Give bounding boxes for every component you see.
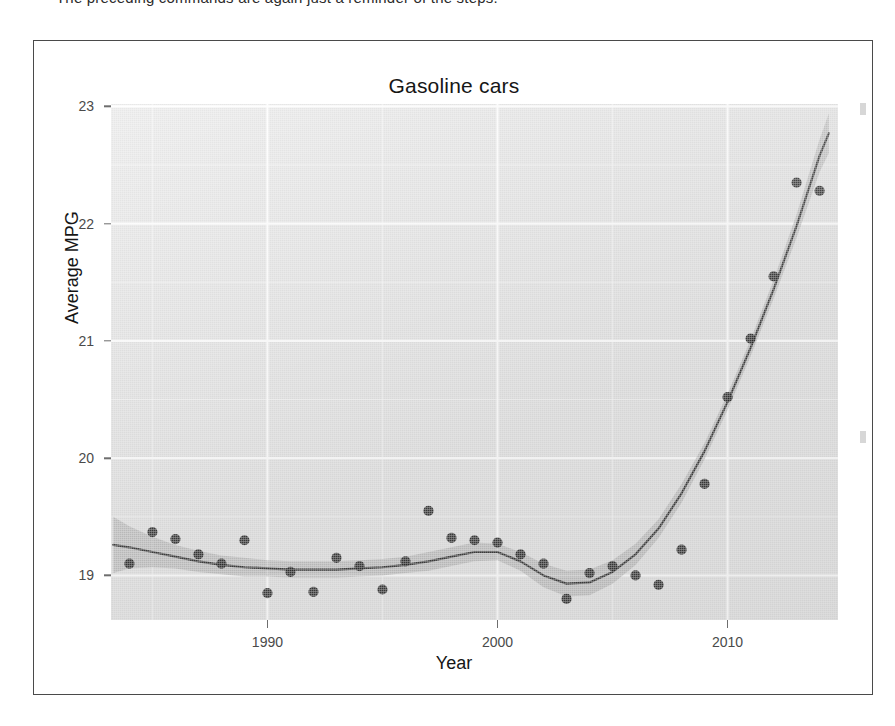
y-axis-tick-mark (104, 340, 111, 341)
x-axis-tick-mark (727, 620, 728, 628)
x-axis-tick-labels: 199020002010 (111, 620, 838, 654)
x-axis-tick-mark (497, 620, 498, 628)
data-point (423, 506, 433, 516)
data-point (331, 553, 341, 563)
data-point (308, 587, 318, 597)
y-axis-tick-mark (104, 223, 111, 224)
data-point (216, 559, 226, 569)
data-point (814, 186, 824, 196)
data-point (469, 535, 479, 545)
y-axis-tick-mark (104, 575, 111, 576)
data-point (676, 545, 686, 555)
data-point (285, 567, 295, 577)
y-axis-tick-mark (104, 457, 111, 458)
data-point (745, 333, 755, 343)
data-point (262, 588, 272, 598)
data-point (354, 561, 364, 571)
data-point (791, 177, 801, 187)
plot-canvas (111, 104, 838, 620)
data-point (722, 392, 732, 402)
figure-frame: Gasoline cars Average MPG 2322212019 199… (33, 40, 873, 695)
chart-title: Gasoline cars (34, 74, 874, 98)
trend-line (113, 133, 828, 583)
data-point (170, 534, 180, 544)
x-axis-tick-label: 1990 (232, 634, 302, 650)
data-point (193, 549, 203, 559)
data-point (699, 479, 709, 489)
data-point (653, 580, 663, 590)
data-point (768, 271, 778, 281)
data-point (239, 535, 249, 545)
y-axis-tick-marks (44, 104, 114, 620)
data-point (584, 568, 594, 578)
y-axis-tick-mark (104, 106, 111, 107)
data-point (377, 584, 387, 594)
x-axis-tick-mark (267, 620, 268, 628)
x-axis-tick-label: 2010 (693, 634, 763, 650)
chart-figure: Gasoline cars Average MPG 2322212019 199… (34, 41, 874, 696)
data-point (124, 559, 134, 569)
data-point (561, 594, 571, 604)
x-axis-tick-label: 2000 (463, 634, 533, 650)
x-axis-title: Year (34, 653, 874, 674)
confidence-band (113, 113, 828, 596)
plot-panel (111, 104, 838, 620)
data-point (607, 561, 617, 571)
data-point (446, 533, 456, 543)
data-point (538, 559, 548, 569)
data-point (630, 570, 640, 580)
data-point (147, 527, 157, 537)
data-point (515, 549, 525, 559)
page-top-text-line: The preceding commands are again just a … (56, 0, 696, 11)
data-point (400, 556, 410, 566)
data-point (492, 538, 502, 548)
